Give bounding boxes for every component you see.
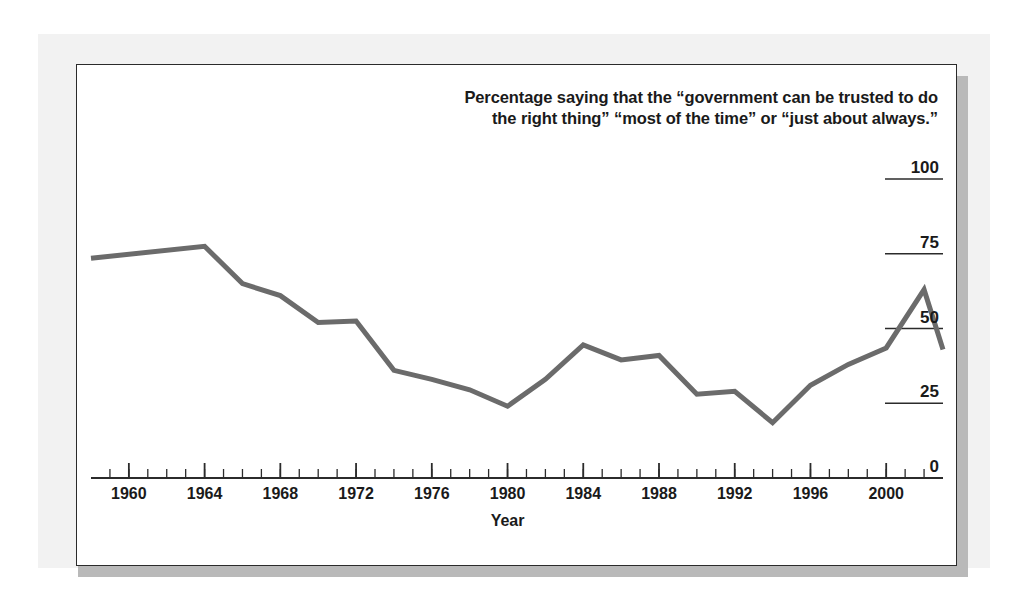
x-axis-tick-label: 1984 [565,485,601,502]
x-axis-title: Year [491,512,525,529]
x-axis-tick-label: 1976 [414,485,450,502]
y-axis-tick-labels: 0255075100 [911,158,939,476]
x-axis-tick-labels: 1960196419681972197619801984198819921996… [111,485,904,502]
line-chart-plot: 0255075100 19601964196819721976198019841… [77,65,958,567]
y-axis-tick-label: 25 [920,382,939,401]
x-axis-tick-label: 1964 [187,485,223,502]
y-axis-tick-label: 0 [930,457,939,476]
x-axis-tick-label: 1988 [641,485,677,502]
x-axis-tick-label: 1992 [717,485,753,502]
figure-shadow-right [957,76,968,577]
y-axis-tick-label: 50 [920,308,939,327]
x-axis-tick-label: 2000 [868,485,904,502]
y-axis-tick-label: 100 [911,158,939,177]
x-axis-tick-label: 1960 [111,485,147,502]
chart-frame: Percentage saying that the “government c… [76,64,957,566]
data-series-line [91,246,943,422]
x-axis-minor-ticks [110,469,924,478]
figure-shadow-bottom [78,566,968,577]
x-axis-tick-label: 1968 [263,485,299,502]
x-axis-tick-label: 1996 [793,485,829,502]
x-axis-tick-label: 1980 [490,485,526,502]
y-axis-tick-label: 75 [920,233,939,252]
x-axis-tick-label: 1972 [338,485,374,502]
